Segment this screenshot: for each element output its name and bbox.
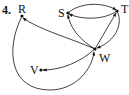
directed-graph xyxy=(0,0,129,95)
edge-s-to-t xyxy=(68,4,116,13)
node-w xyxy=(93,47,96,50)
edge-t-to-s xyxy=(69,11,117,18)
edge-w-to-v xyxy=(43,49,95,70)
node-t xyxy=(115,9,118,12)
node-s xyxy=(66,11,69,14)
edge-t-to-w xyxy=(97,11,119,48)
edge-w-to-r xyxy=(23,18,95,49)
node-r xyxy=(20,14,23,17)
node-v xyxy=(39,68,42,71)
edge-r-to-w xyxy=(13,16,94,90)
